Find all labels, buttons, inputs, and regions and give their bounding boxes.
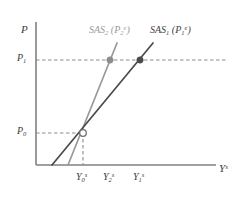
x-tick-label-y0s: Y0s xyxy=(76,172,87,183)
x-tick-label-y2s: Y2s xyxy=(103,172,114,183)
y-tick-label-p1: P1 xyxy=(17,53,26,64)
point-equilibrium-initial xyxy=(80,130,87,137)
x-axis-label: Ys xyxy=(219,163,228,174)
sas-curve-diagram: P Ys P1 P0 Y0s Y2s Y1s SAS2 (P2e) SAS1 (… xyxy=(0,0,246,202)
x-tick-label-y1s: Y1s xyxy=(133,172,144,183)
curve-label-sas2: SAS2 (P2e) xyxy=(89,25,130,36)
point-on-sas1 xyxy=(137,57,143,63)
curve-label-sas1: SAS1 (P1e) xyxy=(150,25,191,36)
y-axis-label: P xyxy=(21,24,28,35)
point-on-sas2 xyxy=(107,57,113,63)
y-tick-label-p0: P0 xyxy=(17,126,26,137)
